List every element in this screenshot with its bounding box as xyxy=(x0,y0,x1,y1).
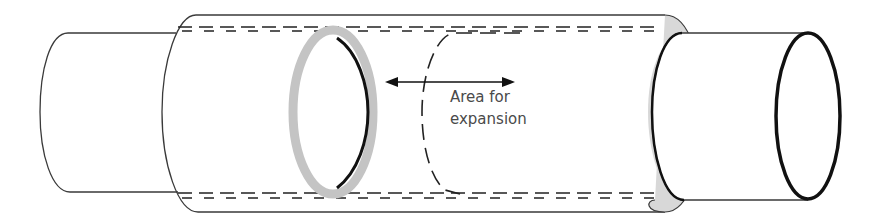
left-seal-ring xyxy=(293,30,373,194)
expansion-label-line1: Area for xyxy=(450,86,527,108)
pipe-expansion-diagram: Area for expansion xyxy=(0,0,874,224)
expansion-label-line2: expansion xyxy=(450,108,527,130)
outer-sleeve xyxy=(162,15,665,212)
expansion-label: Area for expansion xyxy=(450,86,527,130)
left-pipe xyxy=(40,33,178,192)
diagram-graphic xyxy=(0,0,874,224)
right-pipe xyxy=(652,33,840,200)
pipe-opening xyxy=(776,33,840,199)
